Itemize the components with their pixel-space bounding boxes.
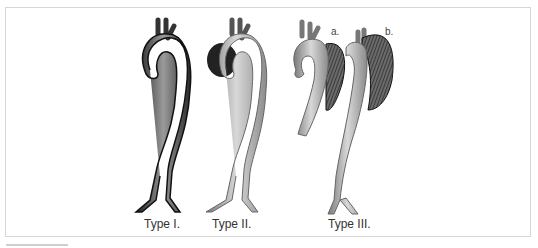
aorta-type-2 — [206, 20, 267, 212]
aorta-illustrations: a. b. — [0, 0, 538, 248]
sublabel-a: a. — [331, 26, 339, 37]
sublabel-b: b. — [385, 26, 393, 37]
label-type-1: Type I. — [144, 217, 180, 231]
aorta-type-3a — [294, 22, 345, 136]
label-type-3: Type III. — [328, 217, 371, 231]
label-type-2: Type II. — [212, 217, 251, 231]
aorta-type-1 — [136, 20, 191, 212]
